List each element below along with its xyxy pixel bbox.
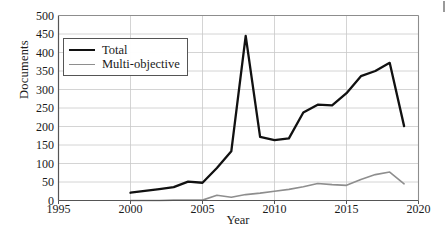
legend-line-total-icon bbox=[69, 49, 95, 51]
legend-item-multi-objective: Multi-objective bbox=[69, 57, 180, 71]
x-axis-label: Year bbox=[58, 213, 418, 228]
legend-item-total: Total bbox=[69, 43, 180, 57]
chart-figure: Documents 050100150200250300350400450500… bbox=[0, 0, 447, 234]
legend-label-multi-objective: Multi-objective bbox=[102, 57, 180, 71]
legend-line-multi-objective-icon bbox=[69, 64, 95, 65]
chart-legend: Total Multi-objective bbox=[63, 38, 188, 76]
legend-label-total: Total bbox=[102, 43, 128, 57]
plot-canvas bbox=[0, 0, 447, 234]
